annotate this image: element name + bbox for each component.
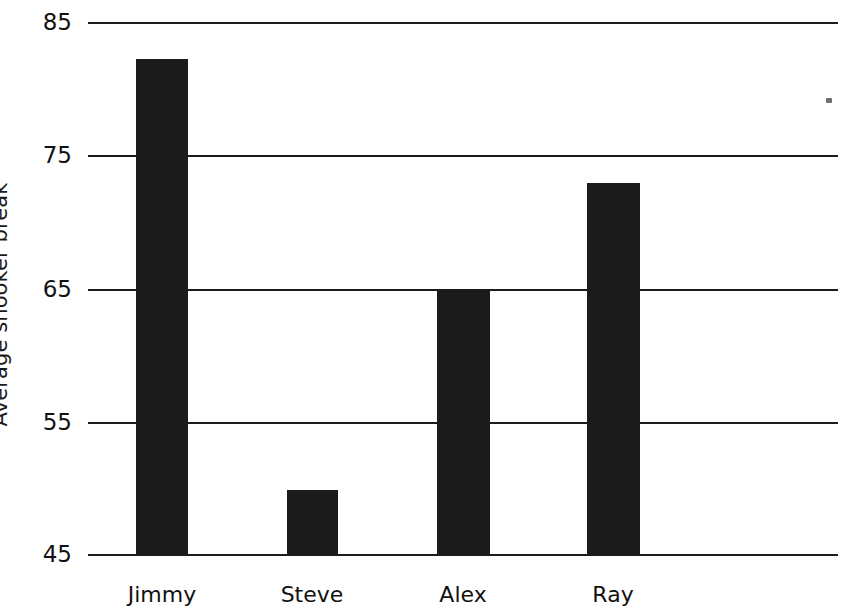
- y-axis-title-label: Average snooker break: [0, 182, 12, 426]
- gridline-85: [88, 22, 838, 24]
- bar-alex[interactable]: [437, 289, 490, 554]
- y-tick-label-85: 85: [0, 11, 72, 34]
- gridline-45-baseline: [88, 554, 838, 556]
- bar-steve[interactable]: [287, 490, 338, 554]
- y-tick-label-55: 55: [0, 411, 72, 434]
- x-tick-label-steve: Steve: [281, 582, 344, 607]
- x-tick-label-jimmy: Jimmy: [128, 582, 196, 607]
- x-tick-label-ray: Ray: [592, 582, 633, 607]
- y-axis-title: Average snooker break: [0, 0, 44, 609]
- y-tick-label-75: 75: [0, 144, 72, 167]
- y-tick-label-65: 65: [0, 278, 72, 301]
- bar-ray[interactable]: [587, 183, 640, 554]
- y-tick-label-45: 45: [0, 543, 72, 566]
- x-tick-label-alex: Alex: [439, 582, 486, 607]
- gridline-75: [88, 155, 838, 157]
- scan-artifact-speck: [826, 98, 832, 103]
- bar-jimmy[interactable]: [136, 59, 188, 554]
- bar-chart: Average snooker break 85 75 65 55 45 Jim…: [0, 0, 848, 609]
- plot-area: 85 75 65 55 45 Jimmy Steve Alex Ray: [88, 22, 838, 554]
